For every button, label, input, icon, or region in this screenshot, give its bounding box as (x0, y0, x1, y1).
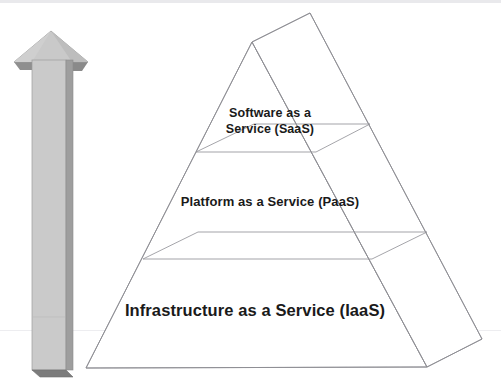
arrow-head-right-bevel (72, 62, 88, 71)
arrow-shaft (32, 60, 66, 370)
arrow-shaft-side-face (66, 60, 73, 370)
layer-label-paas: Platform as a Service (PaaS) (155, 194, 385, 210)
upward-arrow (14, 31, 88, 377)
arrow-head-left-bevel (14, 62, 32, 70)
arrow-base-shadow (32, 370, 73, 377)
layer-label-iaas: Infrastructure as a Service (IaaS) (110, 300, 400, 321)
layer-label-saas: Software as a Service (SaaS) (205, 106, 335, 137)
